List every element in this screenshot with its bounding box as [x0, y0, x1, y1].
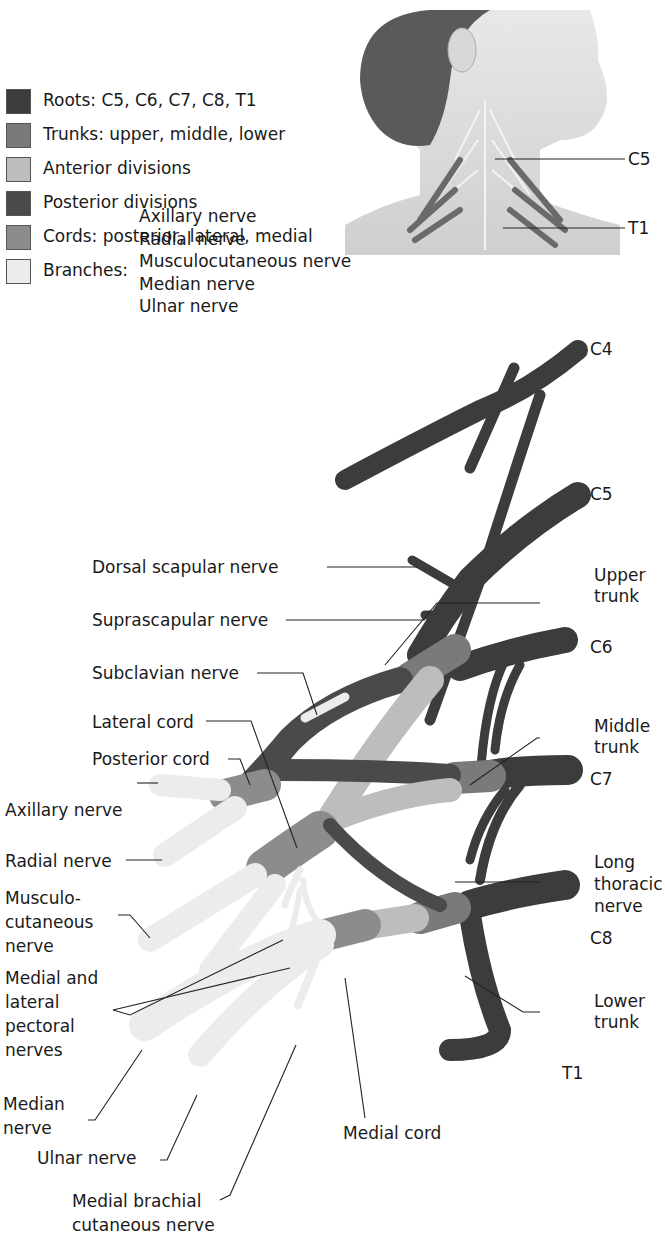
label-line: Medial and — [5, 966, 98, 990]
label-suprascapular: Suprascapular nerve — [92, 609, 268, 631]
label-musculocutaneous: Musculo- cutaneous nerve — [5, 886, 93, 958]
label-line: nerve — [3, 1116, 65, 1140]
label-middle-trunk: Middle trunk — [594, 716, 650, 758]
legend-label: Branches: — [43, 258, 128, 282]
label-line: nerves — [5, 1038, 98, 1062]
inset-label-t1: T1 — [628, 217, 649, 239]
label-upper-trunk: Upper trunk — [594, 565, 645, 607]
label-line: Middle — [594, 716, 650, 737]
label-lateral-cord: Lateral cord — [92, 711, 194, 733]
label-line: Medial brachial — [72, 1189, 215, 1213]
label-line: cutaneous — [5, 910, 93, 934]
label-line: Median — [3, 1092, 65, 1116]
label-line: trunk — [594, 586, 645, 607]
root-label-c6: C6 — [590, 636, 613, 658]
label-line: trunk — [594, 737, 650, 758]
label-line: nerve — [5, 934, 93, 958]
label-ulnar: Ulnar nerve — [37, 1147, 137, 1169]
branches-swatch — [6, 259, 31, 284]
branch-radial: Radial nerve — [139, 228, 351, 251]
label-line: Long — [594, 851, 663, 873]
inset-head-figure — [345, 10, 625, 255]
label-long-thoracic: Long thoracic nerve — [594, 851, 663, 917]
roots-swatch — [6, 89, 31, 114]
label-line: nerve — [594, 895, 663, 917]
branch-list: Axillary nerve Radial nerve Musculocutan… — [139, 205, 351, 318]
branch-median: Median nerve — [139, 273, 351, 296]
label-subclavian: Subclavian nerve — [92, 662, 239, 684]
label-radial: Radial nerve — [5, 850, 112, 872]
root-label-c5: C5 — [590, 483, 613, 505]
label-line: pectoral — [5, 1014, 98, 1038]
branch-musculocutaneous: Musculocutaneous nerve — [139, 250, 351, 273]
legend-label: Anterior divisions — [43, 156, 191, 180]
label-medial-brachial-cutaneous: Medial brachial cutaneous nerve — [72, 1189, 215, 1237]
label-medial-cord: Medial cord — [343, 1122, 441, 1144]
label-line: Lower — [594, 991, 645, 1012]
posterior-swatch — [6, 191, 31, 216]
legend-label: Roots: C5, C6, C7, C8, T1 — [43, 88, 257, 112]
root-label-t1: T1 — [562, 1062, 583, 1084]
label-line: cutaneous nerve — [72, 1213, 215, 1237]
label-line: lateral — [5, 990, 98, 1014]
branch-axillary: Axillary nerve — [139, 205, 351, 228]
label-lower-trunk: Lower trunk — [594, 991, 645, 1033]
legend-item-trunks: Trunks: upper, middle, lower — [6, 122, 313, 156]
root-label-c4: C4 — [590, 338, 613, 360]
root-label-c8: C8 — [590, 927, 613, 949]
legend-item-anterior: Anterior divisions — [6, 156, 313, 190]
inset-label-c5: C5 — [628, 148, 651, 170]
trunks-swatch — [6, 123, 31, 148]
label-dorsal-scapular: Dorsal scapular nerve — [92, 556, 278, 578]
root-label-c7: C7 — [590, 768, 613, 790]
label-axillary: Axillary nerve — [5, 799, 122, 821]
label-pectoral-nerves: Medial and lateral pectoral nerves — [5, 966, 98, 1062]
label-median-nerve: Median nerve — [3, 1092, 65, 1140]
label-line: Upper — [594, 565, 645, 586]
label-posterior-cord: Posterior cord — [92, 748, 210, 770]
legend-label: Trunks: upper, middle, lower — [43, 122, 285, 146]
label-line: trunk — [594, 1012, 645, 1033]
label-line: Musculo- — [5, 886, 93, 910]
cords-swatch — [6, 225, 31, 250]
legend-item-roots: Roots: C5, C6, C7, C8, T1 — [6, 88, 313, 122]
label-line: thoracic — [594, 873, 663, 895]
anterior-swatch — [6, 157, 31, 182]
branch-ulnar: Ulnar nerve — [139, 295, 351, 318]
